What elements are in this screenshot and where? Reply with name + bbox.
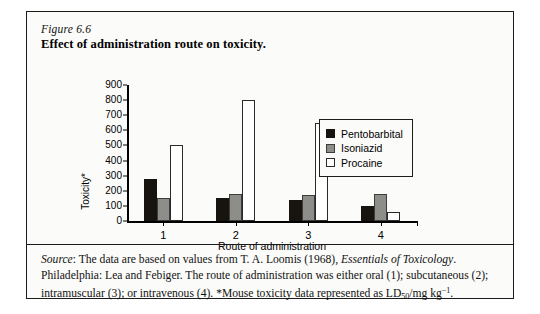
bar-isoniazid-4: [374, 194, 387, 221]
x-tick-mark-2: [236, 221, 237, 226]
y-tick-label-300: 300: [105, 171, 122, 181]
x-axis-title: Route of administration: [127, 240, 417, 252]
bar-procaine-2: [242, 100, 255, 221]
y-tick-label-500: 500: [105, 140, 122, 150]
legend-item-isoniazid: Isoniazid: [326, 142, 403, 154]
y-tick-label-800: 800: [105, 95, 122, 105]
caption-period: .: [450, 287, 453, 300]
bar-pentobarbital-4: [361, 206, 374, 221]
bar-pentobarbital-3: [289, 200, 302, 221]
bar-isoniazid-3: [302, 195, 315, 221]
legend-label-isoniazid: Isoniazid: [341, 142, 382, 154]
figure-title: Effect of administration route on toxici…: [41, 36, 491, 52]
y-tick-label-600: 600: [105, 125, 122, 135]
y-tick-label-400: 400: [105, 156, 122, 166]
x-tick-mark-4: [381, 221, 382, 226]
y-axis-label: Toxicity*: [77, 136, 93, 246]
y-tick-label-100: 100: [105, 201, 122, 211]
bar-pentobarbital-2: [216, 198, 229, 221]
legend-swatch-icon-isoniazid: [326, 144, 335, 153]
bar-procaine-1: [170, 145, 183, 221]
bar-isoniazid-1: [157, 198, 170, 221]
chart-legend: Pentobarbital Isoniazid Procaine: [319, 119, 413, 177]
figure-number: Figure 6.6: [41, 22, 491, 36]
legend-label-procaine: Procaine: [341, 157, 382, 169]
figure-heading: Figure 6.6 Effect of administration rout…: [41, 22, 491, 52]
legend-swatch-icon-pentobarbital: [326, 129, 335, 138]
x-axis-line: [127, 221, 417, 223]
caption-text-a: : The data are based on values from T. A…: [73, 253, 341, 266]
bar-group-2: [216, 85, 255, 221]
figure-frame: Figure 6.6 Effect of administration rout…: [26, 11, 514, 299]
legend-label-pentobarbital: Pentobarbital: [341, 128, 403, 140]
bar-isoniazid-2: [229, 194, 242, 221]
y-tick-label-700: 700: [105, 110, 122, 120]
bar-chart: Toxicity* 0100200300400500600700800900 1…: [67, 74, 487, 249]
bar-pentobarbital-1: [144, 179, 157, 221]
caption-source-label: Source: [41, 253, 73, 266]
y-axis-ticks: 0100200300400500600700800900: [93, 85, 127, 221]
legend-swatch-icon-procaine: [326, 158, 335, 167]
x-tick-mark-3: [308, 221, 309, 226]
legend-item-pentobarbital: Pentobarbital: [326, 128, 403, 140]
x-tick-mark-end: [417, 221, 418, 226]
y-tick-label-900: 900: [105, 80, 122, 90]
y-axis-line: [127, 85, 129, 221]
caption-divider: [27, 244, 513, 245]
legend-item-procaine: Procaine: [326, 157, 403, 169]
x-tick-mark-1: [163, 221, 164, 226]
figure-caption: Source: The data are based on values fro…: [41, 252, 503, 305]
caption-book-title: Essentials of Toxicology: [341, 253, 453, 266]
y-tick-label-200: 200: [105, 186, 122, 196]
bar-procaine-4: [387, 212, 400, 221]
y-axis-label-text: Toxicity*: [80, 173, 91, 210]
y-tick-label-0: 0: [116, 216, 122, 226]
caption-unit: /mg kg: [409, 287, 442, 300]
bar-group-1: [144, 85, 183, 221]
